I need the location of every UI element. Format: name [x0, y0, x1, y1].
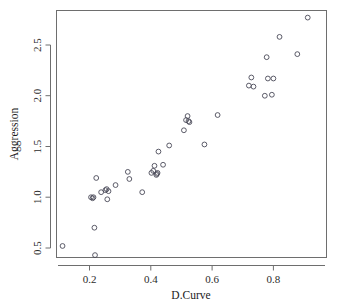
data-point: [215, 113, 220, 118]
data-point: [105, 197, 110, 202]
y-tick-label: 2.0: [31, 88, 43, 102]
data-point: [113, 183, 118, 188]
data-point: [156, 149, 161, 154]
data-point: [127, 177, 132, 182]
data-point: [262, 93, 267, 98]
x-axis-ticks: [90, 266, 274, 271]
data-point: [271, 76, 276, 81]
data-points-layer: [60, 15, 310, 257]
data-point: [264, 55, 269, 60]
data-point: [249, 75, 254, 80]
data-point: [161, 162, 166, 167]
y-tick-label: 1.5: [31, 139, 43, 153]
data-point: [251, 84, 256, 89]
data-point: [125, 169, 130, 174]
plot-frame: [57, 11, 327, 258]
data-point: [94, 176, 99, 181]
data-point: [93, 253, 98, 258]
y-axis-tick-labels: 0.5 1.0 1.5 2.0 2.5: [31, 38, 43, 255]
data-point: [277, 34, 282, 39]
y-axis-ticks: [46, 45, 51, 248]
y-axis-title: Aggression: [8, 108, 21, 161]
data-point: [265, 76, 270, 81]
y-tick-label: 0.5: [31, 241, 43, 255]
data-point: [269, 92, 274, 97]
scatter-plot-figure: 0.2 0.4 0.6 0.8 0.5 1.0 1.5 2.0 2.5 D.Cu…: [0, 0, 344, 308]
data-point: [60, 244, 65, 249]
data-point: [140, 190, 145, 195]
x-tick-label: 0.8: [267, 273, 281, 285]
y-tick-label: 1.0: [31, 190, 43, 204]
data-point: [295, 52, 300, 57]
data-point: [202, 142, 207, 147]
data-point: [182, 128, 187, 133]
data-point: [246, 83, 251, 88]
x-tick-label: 0.6: [205, 273, 219, 285]
x-axis-title: D.Curve: [171, 289, 210, 301]
data-point: [167, 143, 172, 148]
data-point: [92, 225, 97, 230]
plot-canvas: 0.2 0.4 0.6 0.8 0.5 1.0 1.5 2.0 2.5 D.Cu…: [0, 0, 344, 308]
x-tick-label: 0.4: [144, 273, 158, 285]
x-tick-label: 0.2: [83, 273, 97, 285]
data-point: [152, 163, 157, 168]
x-axis-tick-labels: 0.2 0.4 0.6 0.8: [83, 273, 281, 285]
y-tick-label: 2.5: [31, 38, 43, 52]
data-point: [305, 15, 310, 20]
